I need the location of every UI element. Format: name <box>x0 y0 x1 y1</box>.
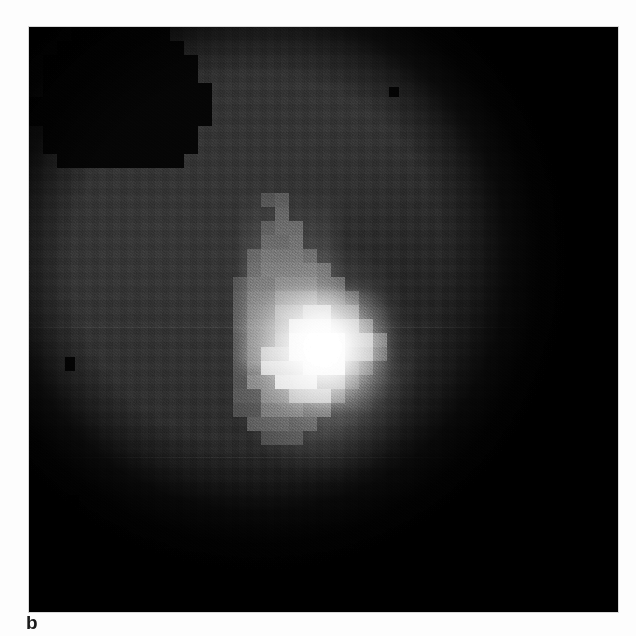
image-panel <box>29 27 618 612</box>
figure-root: b <box>0 0 636 636</box>
panel-label: b <box>26 613 38 632</box>
detector-noise-grain-alt <box>29 27 618 612</box>
